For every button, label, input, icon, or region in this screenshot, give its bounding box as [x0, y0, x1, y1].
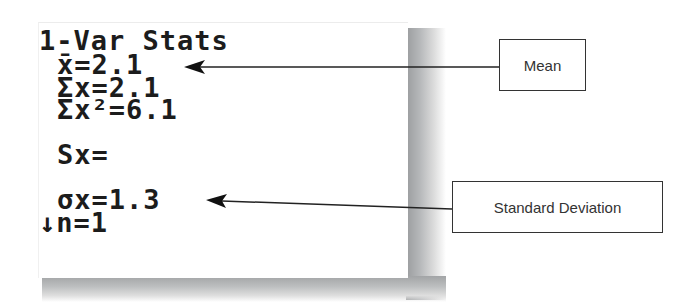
standard-deviation-callout-label: Standard Deviation	[494, 199, 622, 216]
mean-callout: Mean	[499, 39, 586, 91]
mean-arrow-icon	[184, 60, 499, 74]
std-dev-arrow-icon	[206, 194, 452, 209]
annotation-arrows	[0, 0, 693, 305]
standard-deviation-callout: Standard Deviation	[452, 181, 663, 233]
mean-callout-label: Mean	[524, 57, 562, 74]
